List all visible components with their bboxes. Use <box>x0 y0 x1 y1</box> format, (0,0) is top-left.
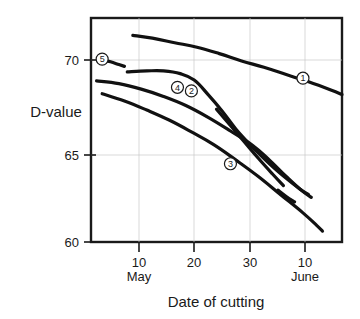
series-marker-4: 4 <box>171 81 183 93</box>
series-marker-2: 2 <box>185 85 197 97</box>
marker-label-2: 2 <box>189 86 194 96</box>
series-marker-1: 1 <box>297 72 309 84</box>
x-tick-label-10may: 10 <box>132 255 146 270</box>
x-axis-title: Date of cutting <box>168 293 265 310</box>
y-tick-label-65: 65 <box>65 148 79 163</box>
marker-label-5: 5 <box>100 54 105 64</box>
marker-label-4: 4 <box>175 83 180 93</box>
y-axis-title: D-value <box>30 103 82 120</box>
y-tick-label-70: 70 <box>65 53 79 68</box>
chart-figure: 70 65 60 10 20 30 10 May June D-value Da… <box>0 0 360 319</box>
x-axis-ticks <box>139 242 305 252</box>
x-tick-label-30may: 30 <box>243 255 257 270</box>
marker-label-3: 3 <box>228 159 233 169</box>
line-chart-svg: 70 65 60 10 20 30 10 May June D-value Da… <box>0 0 360 319</box>
series-marker-5: 5 <box>96 53 108 65</box>
series-marker-3: 3 <box>224 158 236 170</box>
x-tick-label-20may: 20 <box>187 255 201 270</box>
marker-label-1: 1 <box>300 73 305 83</box>
y-tick-label-60: 60 <box>65 235 79 250</box>
x-month-label-may: May <box>127 269 152 284</box>
x-tick-label-10june: 10 <box>298 255 312 270</box>
x-month-label-june: June <box>291 269 319 284</box>
